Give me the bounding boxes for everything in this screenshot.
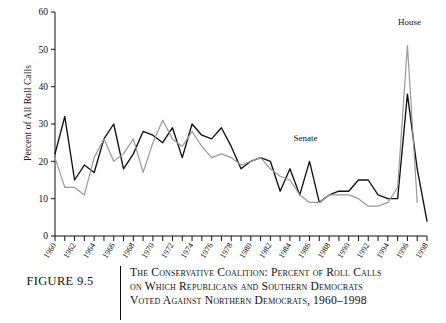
y-axis-tick-label: 30 — [39, 119, 49, 129]
figure-caption-text: The Conservative Coalition: Percent of R… — [130, 265, 446, 309]
x-axis-tick-label-group: 1962 — [61, 241, 77, 260]
caption-line-2: on Which Republicans and Southern Democr… — [130, 280, 446, 294]
x-axis-tick-label-group: 1980 — [238, 241, 254, 260]
figure-container: Percent of All Roll Calls 01020304050601… — [0, 0, 446, 323]
x-axis-tick-label-group: 1976 — [199, 241, 215, 260]
x-axis-tick-label: 1994 — [375, 241, 391, 260]
x-axis-tick-label: 1978 — [218, 241, 234, 260]
x-axis-tick-label-group: 1964 — [81, 241, 97, 260]
figure-caption-block: FIGURE 9.5 The Conservative Coalition: P… — [0, 265, 446, 323]
y-axis-tick-label: 0 — [43, 231, 48, 241]
chart-plot-area: Percent of All Roll Calls 01020304050601… — [0, 0, 446, 262]
x-axis-tick-label-group: 1988 — [316, 241, 332, 260]
line-chart: 0102030405060196019621964196619681970197… — [0, 0, 446, 262]
x-axis-tick-label-group: 1978 — [218, 241, 234, 260]
x-axis-tick-label: 1996 — [394, 241, 410, 260]
y-axis-tick-label: 50 — [39, 45, 49, 55]
x-axis-tick-label: 1990 — [336, 241, 352, 260]
x-axis-tick-label-group: 1970 — [140, 241, 156, 260]
y-axis-tick-label: 20 — [39, 157, 49, 167]
x-axis-tick-label: 1974 — [179, 241, 195, 260]
x-axis-tick-label: 1970 — [140, 241, 156, 260]
x-axis-tick-label: 1972 — [159, 241, 175, 260]
x-axis-tick-label-group: 1960 — [42, 241, 58, 260]
x-axis-tick-label: 1986 — [296, 241, 312, 260]
x-axis-tick-label: 1966 — [101, 241, 117, 260]
x-axis-tick-label: 1988 — [316, 241, 332, 260]
house-series-label: House — [398, 17, 421, 27]
series-line-senate — [55, 94, 427, 221]
x-axis-tick-label: 1962 — [61, 241, 77, 260]
figure-number: FIGURE 9.5 — [0, 265, 120, 289]
x-axis-tick-label-group: 1994 — [375, 241, 391, 260]
x-axis-tick-label: 1980 — [238, 241, 254, 260]
x-axis-tick-label: 1968 — [120, 241, 136, 260]
caption-divider — [120, 266, 121, 320]
x-axis-tick-label-group: 1998 — [414, 241, 430, 260]
x-axis-tick-label-group: 1974 — [179, 241, 195, 260]
x-axis-tick-label-group: 1990 — [336, 241, 352, 260]
x-axis-tick-label: 1960 — [42, 241, 58, 260]
x-axis-tick-label: 1982 — [257, 241, 273, 260]
x-axis-tick-label-group: 1992 — [355, 241, 371, 260]
caption-line-1: The Conservative Coalition: Percent of R… — [130, 266, 446, 280]
series-line-house — [55, 46, 417, 207]
y-axis-title: Percent of All Roll Calls — [23, 33, 33, 193]
x-axis-tick-label-group: 1966 — [101, 241, 117, 260]
y-axis-tick-label: 40 — [39, 82, 49, 92]
x-axis-tick-label: 1992 — [355, 241, 371, 260]
x-axis-tick-label: 1984 — [277, 241, 293, 260]
x-axis-tick-label-group: 1996 — [394, 241, 410, 260]
x-axis-tick-label-group: 1986 — [296, 241, 312, 260]
x-axis-tick-label-group: 1968 — [120, 241, 136, 260]
y-axis-tick-label: 60 — [39, 7, 49, 17]
x-axis-tick-label-group: 1984 — [277, 241, 293, 260]
x-axis-tick-label-group: 1982 — [257, 241, 273, 260]
x-axis-tick-label: 1964 — [81, 241, 97, 260]
y-axis-tick-label: 10 — [39, 194, 49, 204]
x-axis-tick-label-group: 1972 — [159, 241, 175, 260]
senate-series-label: Senate — [294, 133, 318, 143]
x-axis-tick-label: 1998 — [414, 241, 430, 260]
caption-line-3: Voted Against Northern Democrats, 1960–1… — [130, 294, 446, 308]
x-axis-tick-label: 1976 — [199, 241, 215, 260]
